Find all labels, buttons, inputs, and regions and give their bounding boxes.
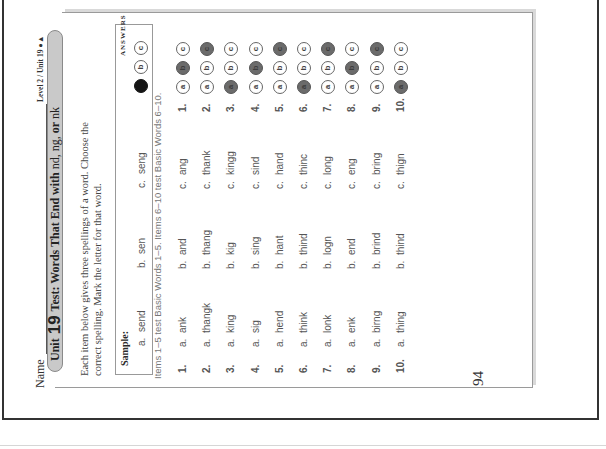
answer-bubble-b-filled[interactable]: b: [249, 61, 263, 75]
answer-bubble-a[interactable]: a: [345, 80, 359, 94]
answer-number: 1.: [177, 104, 188, 112]
answer-number: 4.: [250, 104, 261, 112]
answer-bubble-c-filled[interactable]: c: [273, 42, 287, 56]
sample-word-b: sen: [136, 238, 147, 254]
answer-bubble-b-filled[interactable]: b: [176, 61, 190, 75]
title-main-text: Test: Words That End with: [48, 172, 63, 311]
answer-bubble-c[interactable]: c: [394, 42, 408, 56]
option-c-word: kingg: [225, 151, 236, 175]
answer-number: 2.: [201, 104, 212, 112]
answer-bubble-c-filled[interactable]: c: [370, 42, 384, 56]
option-b-word: brind: [371, 233, 382, 255]
option-c-letter: c.: [225, 181, 236, 189]
answer-bubble-a[interactable]: a: [321, 80, 335, 94]
option-a-word: hend: [274, 311, 285, 333]
option-b-letter: b.: [177, 261, 188, 269]
option-c-letter: c.: [177, 181, 188, 189]
item-row: 4.a.sigb.singc.sind4.abc: [250, 0, 266, 420]
item-number: 7.: [322, 365, 333, 373]
answer-bubble-a[interactable]: a: [273, 80, 287, 94]
option-b-letter: b.: [371, 261, 382, 269]
answer-bubble-a[interactable]: a: [200, 80, 214, 94]
answer-number: 7.: [322, 104, 333, 112]
option-c-word: long: [322, 156, 333, 175]
option-a-letter: a.: [346, 339, 357, 347]
option-b-word: thind: [395, 233, 406, 255]
item-row: 1.a.ankb.andc.ang1.abc: [177, 0, 193, 420]
answer-bubble-c[interactable]: c: [297, 42, 311, 56]
answer-bubble-c-filled[interactable]: c: [200, 42, 214, 56]
option-c-letter: c.: [274, 181, 285, 189]
answer-bubble-b-filled[interactable]: b: [345, 61, 359, 75]
answer-bubble-b[interactable]: b: [273, 61, 287, 75]
option-c-letter: c.: [346, 181, 357, 189]
answer-bubble-a-filled[interactable]: a: [297, 80, 311, 94]
item-number: 4.: [250, 365, 261, 373]
option-a-word: sig: [250, 320, 261, 333]
title-endings-1: nd, ng,: [48, 136, 62, 169]
option-a-letter: a.: [225, 339, 236, 347]
answer-number: 8.: [346, 104, 357, 112]
option-a-word: birng: [371, 311, 382, 333]
page-border-top: [2, 0, 4, 420]
option-a-word: enk: [346, 317, 357, 333]
option-b-letter: b.: [346, 261, 357, 269]
answer-bubble-c[interactable]: c: [345, 42, 359, 56]
option-a-letter: a.: [395, 339, 406, 347]
option-b-word: hant: [274, 236, 285, 255]
option-a-letter: a.: [201, 339, 212, 347]
option-c-word: thign: [395, 153, 406, 175]
answer-number: 10.: [395, 98, 406, 112]
answer-bubble-b[interactable]: b: [321, 61, 335, 75]
item-number: 6.: [298, 365, 309, 373]
option-a-word: thangk: [201, 303, 212, 333]
option-c-word: eng: [346, 158, 357, 175]
option-a-letter: a.: [250, 339, 261, 347]
answer-bubble-b[interactable]: b: [394, 61, 408, 75]
sample-letter-a: a.: [136, 338, 147, 346]
option-c-letter: c.: [201, 181, 212, 189]
item-number: 10.: [395, 359, 406, 373]
answer-bubble-b[interactable]: b: [200, 61, 214, 75]
item-row: 9.a.birngb.brindc.bring9.abc: [371, 0, 387, 420]
option-b-letter: b.: [225, 261, 236, 269]
option-a-letter: a.: [274, 339, 285, 347]
answers-header: ANSWERS: [119, 14, 127, 56]
item-row: 10.a.thingb.thindc.thign10.abc: [395, 0, 411, 420]
answer-bubble-c[interactable]: c: [249, 42, 263, 56]
item-number: 1.: [177, 365, 188, 373]
option-c-letter: c.: [250, 181, 261, 189]
title-endings-2: nk: [48, 107, 62, 119]
item-number: 9.: [371, 365, 382, 373]
answer-bubble-c[interactable]: c: [224, 42, 238, 56]
sample-bubble-c[interactable]: c: [134, 41, 148, 55]
answer-bubble-a[interactable]: a: [176, 80, 190, 94]
sample-bubble-a-filled[interactable]: [134, 79, 148, 93]
option-a-word: think: [298, 312, 309, 333]
option-a-letter: a.: [298, 339, 309, 347]
page-number: 94: [470, 371, 487, 386]
option-b-letter: b.: [250, 261, 261, 269]
answer-bubble-a[interactable]: a: [370, 80, 384, 94]
answer-bubble-b[interactable]: b: [370, 61, 384, 75]
sample-label: Sample:: [119, 331, 130, 366]
title-endings: nd, ng, or nk: [48, 107, 63, 169]
option-b-letter: b.: [322, 261, 333, 269]
title-unit-word: Unit: [48, 338, 63, 361]
option-c-letter: c.: [322, 181, 333, 189]
option-c-letter: c.: [298, 181, 309, 189]
sample-row: a. send b. sen c. seng b c: [136, 0, 152, 374]
answer-bubble-c-filled[interactable]: c: [321, 42, 335, 56]
sample-box: Sample: ANSWERS a. send b. sen c. seng b…: [115, 24, 153, 375]
answer-bubble-b[interactable]: b: [224, 61, 238, 75]
page-title: Unit 19 Test: Words That End with nd, ng…: [47, 30, 63, 372]
item-row: 8.a.enkb.endc.eng8.abc: [346, 0, 362, 420]
answer-bubble-b[interactable]: b: [297, 61, 311, 75]
answer-bubble-c[interactable]: c: [176, 42, 190, 56]
option-b-word: thind: [298, 233, 309, 255]
option-c-word: thank: [201, 151, 212, 175]
answer-bubble-a[interactable]: a: [249, 80, 263, 94]
answer-bubble-a-filled[interactable]: a: [224, 80, 238, 94]
sample-bubble-b[interactable]: b: [134, 60, 148, 74]
answer-bubble-a-filled[interactable]: a: [394, 80, 408, 94]
